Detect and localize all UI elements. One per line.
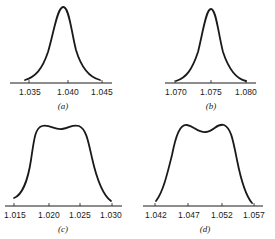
x-tick-label: 1.047 [178, 210, 200, 220]
x-tick-label: 1.052 [211, 210, 233, 220]
x-tick-label: 1.042 [145, 210, 167, 220]
panel-caption: (d) [200, 224, 211, 234]
density-curve [156, 125, 252, 203]
x-tick-label: 1.057 [243, 210, 265, 220]
chart-d-plot [0, 0, 275, 239]
chart-panel-d: 1.042 1.047 1.052 1.057 (d) [0, 0, 275, 239]
